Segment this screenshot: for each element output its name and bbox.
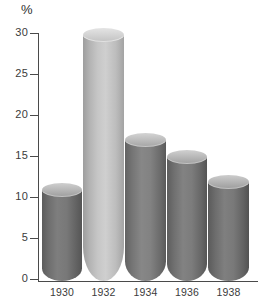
bar-1930-top-ellipse: [42, 183, 82, 197]
bar-1932-body: [83, 35, 124, 281]
bar-1936: [167, 150, 207, 281]
plot-area: [0, 0, 262, 302]
x-tick-label-1932: 1932: [83, 286, 124, 298]
x-tick-label-1930: 1930: [42, 286, 82, 298]
bar-1936-top-ellipse: [167, 150, 207, 164]
bar-1932: [83, 28, 124, 281]
bar-1934-top-ellipse: [125, 133, 166, 147]
bar-1934: [125, 133, 166, 281]
x-axis-line: [38, 281, 258, 282]
cylinder-bar-chart: % 30 25 20 15 10 5 0: [0, 0, 262, 302]
bar-1938: [208, 175, 249, 281]
bar-1930: [42, 183, 82, 281]
bar-1936-body: [167, 157, 207, 281]
x-tick-label-1934: 1934: [125, 286, 166, 298]
bar-1934-body: [125, 140, 166, 281]
bar-1930-body: [42, 190, 82, 281]
bar-1932-top-ellipse: [83, 28, 124, 42]
bar-1938-body: [208, 182, 249, 281]
x-tick-label-1936: 1936: [167, 286, 207, 298]
x-tick-label-1938: 1938: [208, 286, 249, 298]
bar-1938-top-ellipse: [208, 175, 249, 189]
